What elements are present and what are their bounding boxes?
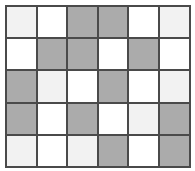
grid-cell-r3c2 [37,70,68,102]
grid-cell-r4c3 [67,103,98,135]
grid-cell-r1c2 [37,6,68,38]
grid-cell-r2c3 [67,38,98,70]
shaded-grid [5,5,191,168]
grid-cell-r1c5 [128,6,159,38]
grid-cell-r2c4 [98,38,129,70]
grid-cell-r4c5 [128,103,159,135]
grid-row [6,6,190,38]
grid-cell-r4c6 [159,103,190,135]
grid-cell-r1c4 [98,6,129,38]
grid-cell-r4c2 [37,103,68,135]
grid-cell-r1c3 [67,6,98,38]
grid-cell-r3c3 [67,70,98,102]
grid-cell-r4c1 [6,103,37,135]
grid-cell-r5c3 [67,135,98,167]
grid-cell-r4c4 [98,103,129,135]
grid-cell-r2c6 [159,38,190,70]
grid-cell-r5c1 [6,135,37,167]
grid-cell-r5c6 [159,135,190,167]
grid-cell-r5c4 [98,135,129,167]
grid-cell-r3c1 [6,70,37,102]
grid-cell-r1c1 [6,6,37,38]
grid-cell-r5c5 [128,135,159,167]
grid-cell-r3c4 [98,70,129,102]
grid-cell-r1c6 [159,6,190,38]
grid-cell-r2c5 [128,38,159,70]
grid-cell-r3c5 [128,70,159,102]
grid-row [6,38,190,70]
grid-row [6,70,190,102]
grid-cell-r2c1 [6,38,37,70]
grid-cell-r5c2 [37,135,68,167]
grid-cell-r3c6 [159,70,190,102]
grid-figure [0,0,195,171]
grid-cell-r2c2 [37,38,68,70]
grid-row [6,103,190,135]
grid-row [6,135,190,167]
grid-body [6,6,190,167]
